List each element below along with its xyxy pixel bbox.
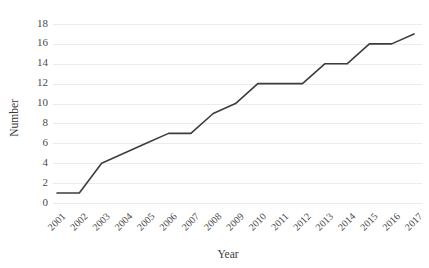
x-axis-title: Year — [217, 248, 238, 260]
y-tick-label: 12 — [37, 76, 48, 88]
y-tick-label: 18 — [37, 17, 49, 29]
y-tick-label: 10 — [37, 96, 49, 108]
chart-canvas: 024681012141618 200120022003200420052006… — [0, 0, 429, 268]
y-tick-label: 14 — [37, 56, 49, 68]
y-tick-label: 0 — [43, 196, 49, 208]
y-axis-title: Number — [8, 99, 20, 137]
y-tick-label: 2 — [43, 176, 49, 188]
y-tick-label: 16 — [37, 36, 49, 48]
y-tick-label: 6 — [43, 136, 49, 148]
line-chart: 024681012141618 200120022003200420052006… — [0, 0, 429, 268]
y-tick-label: 8 — [43, 116, 49, 128]
y-tick-label: 4 — [43, 156, 49, 168]
